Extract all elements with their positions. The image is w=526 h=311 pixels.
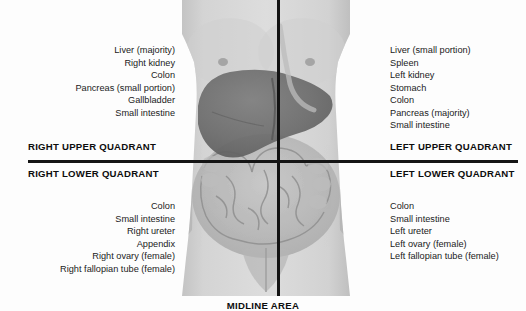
organ-item: Pancreas (small portion) xyxy=(75,82,175,95)
torso-body xyxy=(168,0,364,296)
organ-item: Left fallopian tube (female) xyxy=(390,250,499,263)
organ-item: Small intestine xyxy=(75,107,175,120)
organ-item: Liver (small portion) xyxy=(390,44,471,57)
organ-item: Small intestine xyxy=(60,213,175,226)
right-upper-quadrant-organ-list: Liver (majority) Right kidney Colon Panc… xyxy=(75,44,175,119)
organ-item: Colon xyxy=(390,200,499,213)
midline-divider-line xyxy=(277,0,280,296)
organ-item: Gallbladder xyxy=(75,94,175,107)
transumbilical-divider-line xyxy=(28,160,518,163)
left-lower-quadrant-organ-list: Colon Small intestine Left ureter Left o… xyxy=(390,200,499,263)
left-upper-quadrant-organ-list: Liver (small portion) Spleen Left kidney… xyxy=(390,44,471,132)
organ-item: Right ureter xyxy=(60,225,175,238)
organ-item: Colon xyxy=(60,200,175,213)
organ-item: Left ovary (female) xyxy=(390,238,499,251)
torso-illustration xyxy=(168,0,364,296)
organ-item: Small intestine xyxy=(390,119,471,132)
organ-item: Spleen xyxy=(390,57,471,70)
organ-item: Pancreas (majority) xyxy=(390,107,471,120)
organ-item: Colon xyxy=(390,94,471,107)
midline-area-label: MIDLINE AREA xyxy=(0,300,526,311)
intestines-overlay xyxy=(192,134,340,258)
organ-item: Right kidney xyxy=(75,57,175,70)
right-lower-quadrant-heading: RIGHT LOWER QUADRANT xyxy=(28,168,159,179)
organ-item: Right fallopian tube (female) xyxy=(60,263,175,276)
organ-item: Stomach xyxy=(390,82,471,95)
organ-item: Small intestine xyxy=(390,213,499,226)
organ-item: Right ovary (female) xyxy=(60,250,175,263)
right-lower-quadrant-organ-list: Colon Small intestine Right ureter Appen… xyxy=(60,200,175,275)
organ-item: Liver (majority) xyxy=(75,44,175,57)
torso-graphic xyxy=(168,0,364,296)
left-upper-quadrant-heading: LEFT UPPER QUADRANT xyxy=(390,141,512,152)
right-upper-quadrant-heading: RIGHT UPPER QUADRANT xyxy=(28,141,156,152)
organ-item: Colon xyxy=(75,69,175,82)
abdominal-quadrants-diagram: Liver (majority) Right kidney Colon Panc… xyxy=(0,0,526,311)
organ-item: Left ureter xyxy=(390,225,499,238)
organ-item: Appendix xyxy=(60,238,175,251)
organ-item: Left kidney xyxy=(390,69,471,82)
left-lower-quadrant-heading: LEFT LOWER QUADRANT xyxy=(390,168,515,179)
